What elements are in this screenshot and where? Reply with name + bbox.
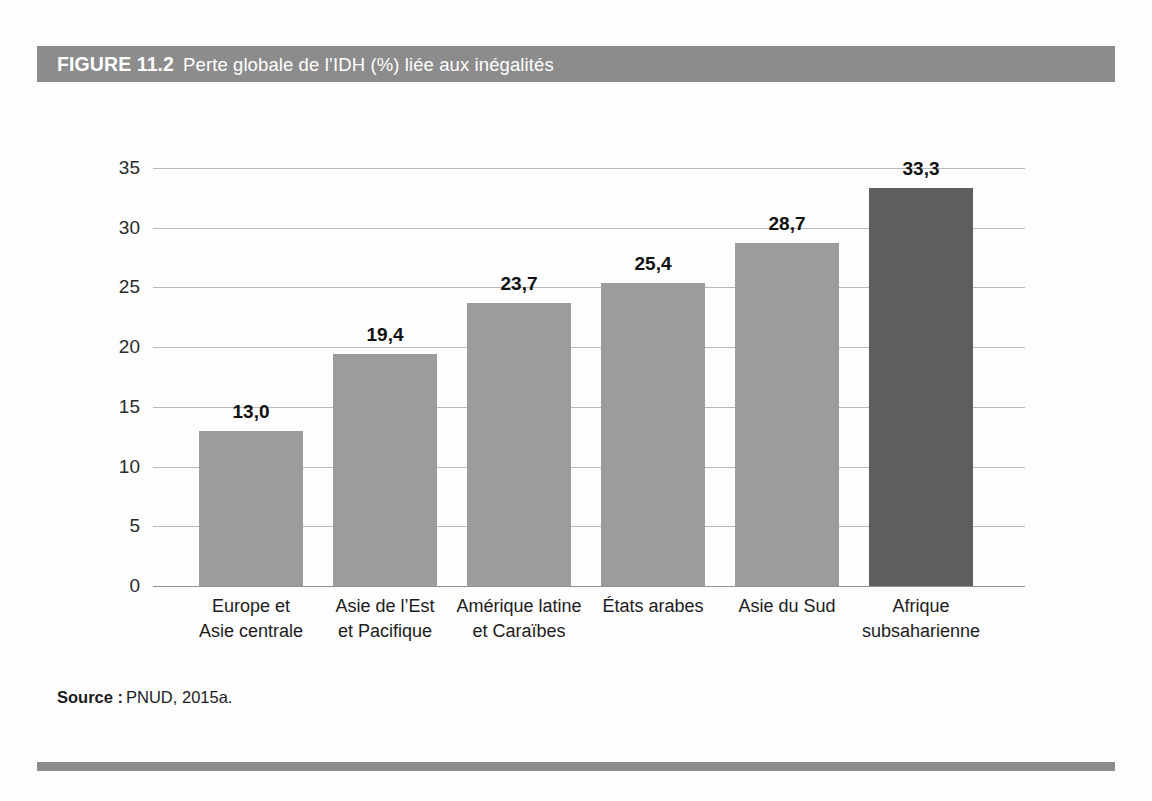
- source-label: Source :: [57, 688, 123, 706]
- y-axis-tick-label: 0: [88, 575, 140, 597]
- x-axis-label-line: Afrique: [892, 596, 949, 616]
- bar: [601, 283, 705, 586]
- figure-title-band: FIGURE 11.2Perte globale de l’IDH (%) li…: [37, 46, 1115, 82]
- x-axis-category-label: Afriquesubsaharienne: [836, 594, 1006, 644]
- figure-container: FIGURE 11.2Perte globale de l’IDH (%) li…: [0, 0, 1152, 801]
- source-note: Source :PNUD, 2015a.: [57, 688, 232, 707]
- figure-caption: Perte globale de l’IDH (%) liée aux inég…: [183, 54, 554, 75]
- x-axis-label-line: Europe et: [212, 596, 290, 616]
- x-axis-label-line: Amérique latine: [456, 596, 581, 616]
- x-axis-category-labels: Europe etAsie centraleAsie de l’Estet Pa…: [153, 594, 1025, 660]
- figure-number-label: FIGURE 11.2: [57, 53, 174, 75]
- bar-value-label: 28,7: [727, 213, 847, 235]
- bar: [199, 431, 303, 586]
- bar: [735, 243, 839, 586]
- x-axis-label-line: et Caraïbes: [434, 619, 604, 644]
- bar: [467, 303, 571, 586]
- x-axis-label-line: États arabes: [602, 596, 703, 616]
- figure-bottom-rule: [37, 762, 1115, 771]
- y-axis-tick-label: 20: [88, 336, 140, 358]
- x-axis-label-line: Asie du Sud: [738, 596, 835, 616]
- y-axis-tick-label: 25: [88, 276, 140, 298]
- x-axis-label-line: Asie de l’Est: [335, 596, 434, 616]
- x-axis-label-line: subsaharienne: [836, 619, 1006, 644]
- bar: [869, 188, 973, 586]
- source-value: PNUD, 2015a.: [126, 688, 232, 706]
- y-axis-tick-label: 15: [88, 396, 140, 418]
- bar-value-label: 25,4: [593, 253, 713, 275]
- bar: [333, 354, 437, 586]
- bar-value-label: 19,4: [325, 324, 445, 346]
- chart-baseline-axis: [153, 586, 1025, 587]
- figure-title-text: FIGURE 11.2Perte globale de l’IDH (%) li…: [37, 53, 554, 76]
- y-axis-tick-label: 35: [88, 157, 140, 179]
- y-axis-tick-label: 10: [88, 456, 140, 478]
- bar-value-label: 33,3: [861, 158, 981, 180]
- bar-value-label: 13,0: [191, 401, 311, 423]
- y-axis-tick-label: 30: [88, 217, 140, 239]
- bar-value-label: 23,7: [459, 273, 579, 295]
- y-axis-tick-label: 5: [88, 515, 140, 537]
- chart-plot-area: [153, 168, 1025, 586]
- y-axis-tick-labels: 05101520253035: [88, 168, 140, 586]
